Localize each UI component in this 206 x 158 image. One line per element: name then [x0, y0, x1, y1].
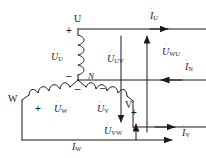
u-line-vw-symbol: ˙U	[104, 125, 111, 136]
terminal-u-label: U	[74, 14, 81, 24]
u-line-vw-sub: VW	[111, 129, 122, 136]
u-line-uv-symbol: ˙U	[107, 53, 114, 64]
u-line-wu-symbol: ˙U	[162, 46, 169, 57]
i-line-v-label: ˙IV	[182, 128, 190, 139]
polarity-minus-w: –	[75, 84, 81, 94]
phasor-dot-icon: ˙	[150, 7, 152, 14]
polarity-minus-v: –	[100, 83, 106, 93]
phasor-dot-icon: ˙	[72, 138, 74, 145]
circuit-schematic-svg	[0, 0, 206, 158]
i-line-v-sub: V	[185, 131, 190, 138]
i-line-u-symbol: ˙I	[150, 10, 153, 21]
terminal-n-label: N	[88, 72, 94, 81]
phasor-dot-icon: ˙	[185, 58, 187, 65]
phasor-dot-icon: ˙	[99, 100, 101, 107]
u-phase-u-sub: U	[58, 55, 63, 62]
u-phase-coil	[78, 35, 84, 75]
phasor-dot-icon: ˙	[109, 50, 111, 57]
u-phase-v-symbol: ˙U	[97, 103, 104, 114]
phasor-dot-icon: ˙	[56, 100, 58, 107]
i-line-u-sub: U	[153, 14, 158, 21]
i-neutral-symbol: ˙I	[185, 61, 188, 72]
polarity-minus-u: –	[66, 71, 72, 81]
u-line-uv-sub: UV	[114, 57, 123, 64]
u-phase-w-label: ˙UW	[54, 104, 67, 115]
phasor-dot-icon: ˙	[164, 43, 166, 50]
i-line-w-label: ˙IW	[72, 142, 81, 153]
u-line-vw-label: ˙UVW	[104, 126, 122, 137]
u-line-wu-sub: WU	[169, 50, 180, 57]
w-phase-coil	[29, 83, 70, 95]
phasor-dot-icon: ˙	[53, 48, 55, 55]
i-line-w-sub: W	[75, 145, 81, 152]
circuit-diagram-figure: U V W N + – + – + – ˙UU ˙UV ˙UW ˙UUV ˙UV…	[0, 0, 206, 158]
w-phase-left-lead	[22, 95, 29, 100]
polarity-plus-v: +	[131, 108, 137, 118]
i-line-v-symbol: ˙I	[182, 127, 185, 138]
u-line-wu-label: ˙UWU	[162, 47, 180, 58]
polarity-plus-u: +	[66, 26, 72, 36]
i-line-u-label: ˙IU	[150, 11, 158, 22]
phasor-dot-icon: ˙	[182, 124, 184, 131]
u-phase-u-symbol: ˙U	[51, 51, 58, 62]
terminal-w-label: W	[8, 94, 17, 104]
u-phase-v-label: ˙UV	[97, 104, 109, 115]
u-phase-u-label: ˙UU	[51, 52, 63, 63]
phasor-dot-icon: ˙	[106, 122, 108, 129]
i-line-w-symbol: ˙I	[72, 141, 75, 152]
u-phase-w-sub: W	[61, 107, 67, 114]
u-phase-v-sub: V	[104, 107, 109, 114]
polarity-plus-w: +	[35, 104, 41, 114]
u-phase-w-symbol: ˙U	[54, 103, 61, 114]
i-neutral-sub: N	[188, 65, 193, 72]
u-line-uv-label: ˙UUV	[107, 54, 124, 65]
i-neutral-label: ˙IN	[185, 62, 193, 73]
